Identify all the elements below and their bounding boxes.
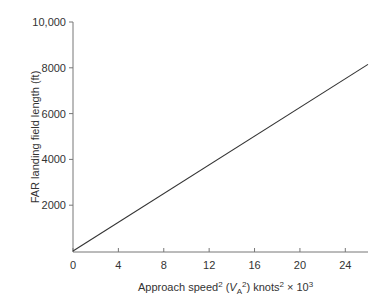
x-tick-label: 12 bbox=[203, 259, 215, 271]
y-axis-label: FAR landing field length (ft) bbox=[29, 71, 41, 204]
y-tick-label: 4000 bbox=[42, 153, 66, 165]
x-axis-ticks: 04812162024 bbox=[70, 248, 351, 271]
y-tick-label: 2000 bbox=[42, 199, 66, 211]
y-tick-label: 8000 bbox=[42, 62, 66, 74]
x-tick-label: 16 bbox=[248, 259, 260, 271]
x-tick-label: 8 bbox=[161, 259, 167, 271]
series-line bbox=[73, 64, 368, 251]
data-series bbox=[73, 64, 368, 251]
y-tick-label: 10,000 bbox=[32, 16, 66, 28]
x-tick-label: 24 bbox=[339, 259, 351, 271]
x-tick-label: 0 bbox=[70, 259, 76, 271]
x-tick-label: 20 bbox=[294, 259, 306, 271]
x-axis-label: Approach speed2 (VA2) knots2 × 103 bbox=[138, 280, 314, 296]
chart: 200040006000800010,000 04812162024 FAR l… bbox=[0, 0, 389, 308]
y-tick-label: 6000 bbox=[42, 108, 66, 120]
x-tick-label: 4 bbox=[115, 259, 121, 271]
